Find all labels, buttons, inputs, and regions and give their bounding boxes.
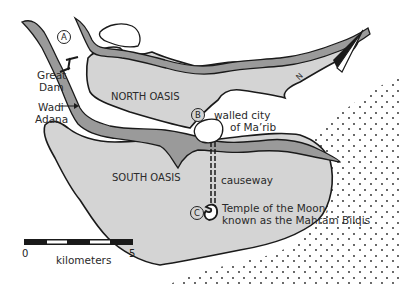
south-oasis-label: SOUTH OASIS [112,172,181,184]
wadi-label-1: Wadi [38,101,64,113]
great-dam-label-2: Dam [39,81,64,93]
temple-label-1: Temple of the Moon, [222,202,329,214]
marker-c: C [190,206,204,220]
causeway-label: causeway [221,174,273,186]
scale-bar [24,239,133,245]
scale-unit-label: kilometers [56,254,111,266]
great-dam-label-1: Great [37,69,66,81]
marker-a: A [57,30,71,44]
city-label-1: walled city [214,109,270,121]
marker-b: B [191,108,205,122]
north-oasis-label: NORTH OASIS [111,91,180,103]
scale-end-label: 5 [129,248,135,259]
river-island [99,24,140,47]
temple-label-2: known as the Mahram Bilqis [222,214,370,226]
temple-of-the-moon [205,205,218,220]
city-label-2: of Ma’rib [230,121,276,133]
scale-start-label: 0 [22,248,28,259]
wadi-label-2: Adana [35,113,68,125]
walled-city-maribi [194,119,222,143]
